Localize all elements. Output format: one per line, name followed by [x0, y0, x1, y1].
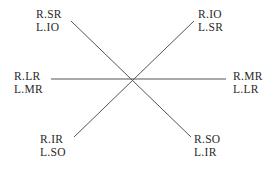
label-lower-right-line1: R.SO [194, 133, 220, 146]
label-lower-left: R.IR L.SO [40, 133, 66, 159]
label-upper-right-line2: L.SR [198, 21, 223, 34]
label-lower-left-line1: R.IR [40, 133, 66, 146]
label-upper-right: R.IO L.SR [198, 8, 223, 34]
label-right: R.MR L.LR [233, 70, 263, 96]
label-right-line2: L.LR [233, 83, 263, 96]
label-lower-right: R.SO L.IR [194, 133, 220, 159]
label-upper-left-line2: L.IO [36, 21, 62, 34]
label-left: R.LR L.MR [14, 70, 43, 96]
label-lower-left-line2: L.SO [40, 146, 66, 159]
label-left-line1: R.LR [14, 70, 43, 83]
label-lower-right-line2: L.IR [194, 146, 220, 159]
label-upper-right-line1: R.IO [198, 8, 223, 21]
label-left-line2: L.MR [14, 83, 43, 96]
label-upper-left: R.SR L.IO [36, 8, 62, 34]
label-right-line1: R.MR [233, 70, 263, 83]
label-upper-left-line1: R.SR [36, 8, 62, 21]
